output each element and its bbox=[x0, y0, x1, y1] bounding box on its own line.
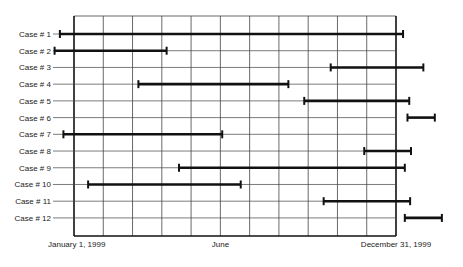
bar-6 bbox=[407, 114, 434, 122]
bar-9 bbox=[179, 164, 405, 172]
row-label: Case # 3 bbox=[19, 63, 52, 72]
row-label: Case # 11 bbox=[15, 197, 51, 206]
x-tick-label: June bbox=[212, 240, 230, 249]
bar-8 bbox=[364, 147, 411, 155]
row-label: Case # 2 bbox=[19, 47, 52, 56]
bar-1 bbox=[60, 30, 403, 38]
bar-12 bbox=[405, 214, 442, 222]
row-label: Case # 1 bbox=[19, 30, 52, 39]
row-label: Case # 10 bbox=[15, 180, 52, 189]
bar-5 bbox=[304, 97, 409, 105]
bar-7 bbox=[63, 130, 222, 138]
row-lines bbox=[53, 34, 396, 218]
x-tick-label: January 1, 1999 bbox=[48, 240, 106, 249]
row-label: Case # 5 bbox=[19, 97, 52, 106]
row-label: Case # 7 bbox=[19, 130, 52, 139]
x-axis-labels: January 1, 1999JuneDecember 31, 1999 bbox=[48, 240, 432, 249]
row-label: Case # 6 bbox=[19, 114, 52, 123]
gantt-chart: Case # 1Case # 2Case # 3Case # 4Case # 5… bbox=[0, 0, 463, 267]
row-labels: Case # 1Case # 2Case # 3Case # 4Case # 5… bbox=[15, 30, 52, 223]
bar-2 bbox=[55, 47, 167, 55]
bar-3 bbox=[331, 63, 424, 71]
bar-10 bbox=[88, 180, 241, 188]
bar-4 bbox=[138, 80, 288, 88]
row-label: Case # 4 bbox=[19, 80, 52, 89]
row-label: Case # 12 bbox=[15, 214, 52, 223]
grid bbox=[74, 16, 396, 236]
x-tick-label: December 31, 1999 bbox=[361, 240, 432, 249]
row-label: Case # 9 bbox=[19, 164, 52, 173]
bars bbox=[55, 30, 442, 222]
row-label: Case # 8 bbox=[19, 147, 52, 156]
